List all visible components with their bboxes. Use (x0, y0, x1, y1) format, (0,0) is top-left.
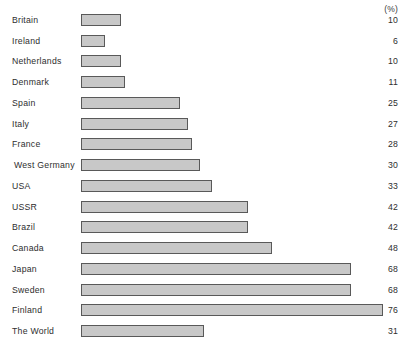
row-label-west-germany: West Germany (14, 160, 75, 171)
row-value-france: 28 (388, 139, 398, 150)
bar-denmark (81, 76, 125, 88)
chart-row: Italy27 (0, 113, 420, 134)
bar-track (81, 325, 204, 337)
bar-track (81, 201, 248, 213)
row-value-ireland: 6 (393, 35, 398, 46)
row-label-the-world: The World (12, 326, 54, 337)
bar-the-world (81, 325, 204, 337)
row-value-canada: 48 (388, 243, 398, 254)
bar-track (81, 221, 248, 233)
row-value-brazil: 42 (388, 222, 398, 233)
chart-row: Denmark11 (0, 72, 420, 93)
bar-ireland (81, 35, 105, 47)
row-value-spain: 25 (388, 97, 398, 108)
bar-track (81, 118, 188, 130)
row-label-netherlands: Netherlands (12, 56, 62, 67)
chart-row: Netherlands10 (0, 51, 420, 72)
row-label-france: France (12, 139, 41, 150)
chart-row: Britain10 (0, 10, 420, 31)
bar-japan (81, 263, 351, 275)
bar-west-germany (81, 159, 200, 171)
bar-track (81, 263, 351, 275)
bar-finland (81, 304, 383, 316)
bar-track (81, 304, 383, 316)
bar-track (81, 159, 200, 171)
row-value-japan: 68 (388, 263, 398, 274)
bar-track (81, 138, 192, 150)
chart-row: Japan68 (0, 259, 420, 280)
bar-sweden (81, 284, 351, 296)
chart-row: The World31 (0, 321, 420, 342)
row-label-finland: Finland (12, 305, 42, 316)
row-label-ireland: Ireland (12, 35, 40, 46)
row-value-britain: 10 (388, 14, 398, 25)
bar-track (81, 97, 180, 109)
row-label-britain: Britain (12, 14, 38, 25)
row-label-denmark: Denmark (12, 77, 49, 88)
bar-track (81, 242, 272, 254)
chart-row: France28 (0, 134, 420, 155)
row-value-usa: 33 (388, 180, 398, 191)
chart-row: Finland76 (0, 300, 420, 321)
bar-track (81, 14, 121, 26)
bar-spain (81, 97, 180, 109)
chart-row: Spain25 (0, 93, 420, 114)
row-value-finland: 76 (388, 305, 398, 316)
row-value-ussr: 42 (388, 201, 398, 212)
chart-row: West Germany30 (0, 155, 420, 176)
bar-track (81, 76, 125, 88)
row-label-japan: Japan (12, 263, 37, 274)
chart-row: Canada48 (0, 238, 420, 259)
chart-rows: Britain10Ireland6Netherlands10Denmark11S… (0, 0, 420, 346)
row-value-west-germany: 30 (388, 160, 398, 171)
bar-usa (81, 180, 212, 192)
bar-brazil (81, 221, 248, 233)
row-value-the-world: 31 (388, 326, 398, 337)
row-label-spain: Spain (12, 97, 35, 108)
row-label-ussr: USSR (12, 201, 37, 212)
bar-italy (81, 118, 188, 130)
chart-row: Brazil42 (0, 217, 420, 238)
bar-chart: (%) Britain10Ireland6Netherlands10Denmar… (0, 0, 420, 346)
row-value-italy: 27 (388, 118, 398, 129)
bar-track (81, 35, 105, 47)
bar-track (81, 55, 121, 67)
row-label-italy: Italy (12, 118, 29, 129)
bar-netherlands (81, 55, 121, 67)
row-label-usa: USA (12, 180, 31, 191)
row-label-canada: Canada (12, 243, 44, 254)
row-label-brazil: Brazil (12, 222, 35, 233)
bar-track (81, 180, 212, 192)
chart-row: Ireland6 (0, 30, 420, 51)
bar-track (81, 284, 351, 296)
row-label-sweden: Sweden (12, 284, 45, 295)
bar-france (81, 138, 192, 150)
row-value-denmark: 11 (389, 77, 398, 88)
chart-row: USA33 (0, 176, 420, 197)
bar-ussr (81, 201, 248, 213)
row-value-sweden: 68 (388, 284, 398, 295)
chart-row: USSR42 (0, 196, 420, 217)
bar-canada (81, 242, 272, 254)
chart-row: Sweden68 (0, 279, 420, 300)
bar-britain (81, 14, 121, 26)
row-value-netherlands: 10 (388, 56, 398, 67)
